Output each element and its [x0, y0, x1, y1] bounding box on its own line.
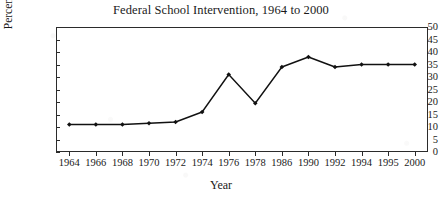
chart-figure: Federal School Intervention, 1964 to 200…	[0, 0, 442, 199]
x-tick-label: 1990	[298, 158, 319, 169]
x-tick-mark	[388, 152, 389, 156]
y-tick-mark	[56, 52, 60, 53]
x-tick-mark	[149, 152, 150, 156]
series-layer	[56, 27, 428, 152]
data-point-marker	[147, 121, 152, 126]
x-tick-mark	[96, 152, 97, 156]
x-tick-mark	[229, 152, 230, 156]
y-tick-label: 10	[390, 122, 442, 133]
x-tick-label: 1972	[165, 158, 186, 169]
chart-title: Federal School Intervention, 1964 to 200…	[0, 3, 442, 18]
y-tick-label: 5	[390, 134, 442, 145]
y-tick-mark	[56, 115, 60, 116]
x-tick-mark	[415, 152, 416, 156]
x-tick-label: 2000	[404, 158, 425, 169]
y-tick-mark	[56, 152, 60, 153]
x-tick-mark	[335, 152, 336, 156]
y-tick-mark	[56, 27, 60, 28]
x-tick-mark	[255, 152, 256, 156]
data-point-marker	[173, 120, 178, 125]
y-tick-mark	[56, 65, 60, 66]
data-point-marker	[120, 122, 125, 127]
x-tick-label: 1970	[139, 158, 160, 169]
y-tick-label: 0	[390, 147, 442, 158]
y-tick-label: 20	[390, 97, 442, 108]
x-tick-label: 1994	[351, 158, 372, 169]
data-point-marker	[333, 65, 338, 70]
y-tick-label: 25	[390, 84, 442, 95]
x-tick-mark	[362, 152, 363, 156]
x-tick-label: 1968	[112, 158, 133, 169]
x-tick-label: 1986	[271, 158, 292, 169]
y-tick-mark	[56, 40, 60, 41]
y-tick-label: 45	[390, 34, 442, 45]
y-tick-label: 50	[390, 22, 442, 33]
data-point-marker	[67, 122, 72, 127]
x-tick-label: 1966	[85, 158, 106, 169]
x-tick-mark	[308, 152, 309, 156]
y-tick-mark	[56, 140, 60, 141]
y-tick-mark	[56, 127, 60, 128]
x-tick-label: 1974	[192, 158, 213, 169]
x-tick-label: 1995	[378, 158, 399, 169]
y-tick-label: 40	[390, 47, 442, 58]
x-axis-title: Year	[0, 178, 442, 193]
x-tick-mark	[282, 152, 283, 156]
y-axis-title: Percentage	[2, 0, 14, 52]
x-tick-label: 1978	[245, 158, 266, 169]
y-tick-mark	[56, 90, 60, 91]
y-tick-label: 30	[390, 72, 442, 83]
y-tick-mark	[56, 77, 60, 78]
x-tick-label: 1976	[218, 158, 239, 169]
y-tick-label: 15	[390, 109, 442, 120]
data-point-marker	[306, 55, 311, 60]
x-tick-label: 1964	[59, 158, 80, 169]
x-tick-mark	[202, 152, 203, 156]
x-tick-mark	[122, 152, 123, 156]
y-tick-mark	[56, 102, 60, 103]
series-line	[69, 57, 414, 125]
y-tick-label: 35	[390, 59, 442, 70]
data-point-marker	[359, 62, 364, 67]
data-point-marker	[94, 122, 99, 127]
x-tick-label: 1992	[325, 158, 346, 169]
x-tick-mark	[176, 152, 177, 156]
x-tick-mark	[69, 152, 70, 156]
